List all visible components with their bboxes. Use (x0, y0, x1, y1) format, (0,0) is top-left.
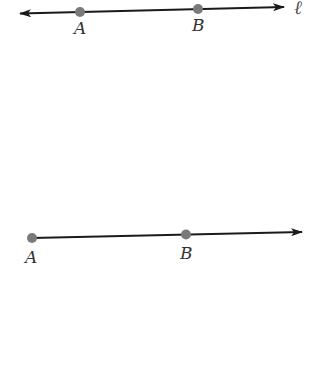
geometry-diagram: A B ℓ A B (0, 0, 323, 392)
label-a: A (72, 18, 86, 38)
ray-point-a (27, 233, 37, 243)
point-b (193, 4, 203, 14)
point-a (75, 7, 85, 17)
ray-ab-segment (32, 232, 302, 238)
label-line-l: ℓ (294, 0, 302, 18)
ray-label-b: B (179, 243, 193, 263)
ray-ab: A B (23, 230, 302, 268)
label-b: B (191, 15, 205, 35)
line-l: A B ℓ (20, 0, 302, 38)
ray-point-b (181, 230, 191, 240)
ray-label-a: A (23, 247, 37, 267)
line-l-segment (20, 7, 284, 14)
